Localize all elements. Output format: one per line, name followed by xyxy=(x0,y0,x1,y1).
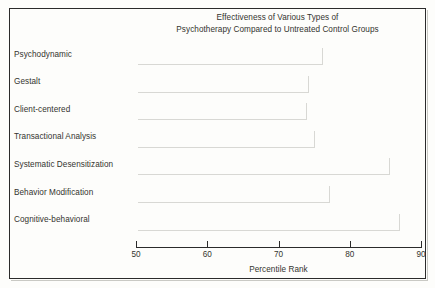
x-axis-tick-60 xyxy=(207,241,208,248)
x-axis-tick-80 xyxy=(350,241,351,248)
bar-shadow xyxy=(138,214,400,231)
bar-1 xyxy=(136,46,321,63)
x-axis-tick-label-80: 80 xyxy=(345,250,354,259)
x-axis-tick-label-60: 60 xyxy=(203,250,212,259)
chart-figure: Effectiveness of Various Types of Psycho… xyxy=(0,0,435,288)
bar-shadow xyxy=(138,76,309,93)
category-label-4: Transactional Analysis xyxy=(14,132,132,141)
bar-2 xyxy=(136,74,307,91)
x-axis-tick-label-70: 70 xyxy=(274,250,283,259)
plot-area xyxy=(136,46,421,240)
bar-shadow xyxy=(138,48,323,65)
bar-shadow xyxy=(138,131,315,148)
x-axis-tick-90 xyxy=(421,241,422,248)
bar-shadow xyxy=(138,158,390,175)
x-axis-tick-label-90: 90 xyxy=(416,250,425,259)
category-label-7: Cognitive-behavioral xyxy=(14,215,132,224)
chart-title: Effectiveness of Various Types of Psycho… xyxy=(135,12,420,35)
bar-shadow xyxy=(138,103,307,120)
bar-3 xyxy=(136,101,305,118)
x-axis-tick-50 xyxy=(136,241,137,248)
category-label-3: Client-centered xyxy=(14,105,132,114)
category-label-6: Behavior Modification xyxy=(14,188,132,197)
category-label-1: Psychodynamic xyxy=(14,50,132,59)
bar-7 xyxy=(136,212,398,229)
category-label-2: Gestalt xyxy=(14,77,132,86)
x-axis-title: Percentile Rank xyxy=(136,265,421,274)
x-axis-tick-label-50: 50 xyxy=(131,250,140,259)
category-label-5: Systematic Desensitization xyxy=(14,160,132,169)
bar-5 xyxy=(136,156,388,173)
chart-title-line-2: Psychotherapy Compared to Untreated Cont… xyxy=(135,24,420,36)
bar-6 xyxy=(136,184,328,201)
x-axis-tick-70 xyxy=(279,241,280,248)
chart-title-line-1: Effectiveness of Various Types of xyxy=(135,12,420,24)
bar-4 xyxy=(136,129,313,146)
bar-shadow xyxy=(138,186,330,203)
